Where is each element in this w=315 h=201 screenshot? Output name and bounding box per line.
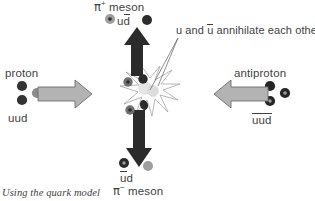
annihilation-annotation-label: u and u annihilate each other xyxy=(176,24,315,37)
annotation-text-before: u and xyxy=(176,24,207,36)
pi-minus-meson-label: π− meson xyxy=(113,186,163,198)
antiproton-direction-arrow xyxy=(214,80,268,108)
antiproton-quark-content-label: uud xyxy=(252,113,272,127)
antiproton-quark-content-text: uud xyxy=(252,113,272,126)
pi-plus-meson-label: π+ meson xyxy=(94,2,144,14)
proton-direction-arrow xyxy=(38,80,92,108)
pi-minus-symbol: π xyxy=(113,184,120,198)
annotation-text-after: annihilate each other xyxy=(213,24,315,36)
pi-plus-symbol: π xyxy=(94,0,101,14)
pi-minus-quark-d: d xyxy=(127,172,134,184)
antiproton-quark-dots xyxy=(265,81,290,106)
pi-plus-direction-arrow xyxy=(124,27,150,76)
annotation-leader-line xyxy=(150,38,178,90)
pi-plus-meson-word: meson xyxy=(106,1,144,13)
antiproton-label: antiproton xyxy=(234,68,286,80)
figure-caption: Using the quark model xyxy=(2,188,100,199)
pi-plus-quark-dbar: d xyxy=(124,14,131,27)
pi-minus-meson-word: meson xyxy=(125,185,163,197)
pi-minus-direction-arrow xyxy=(126,110,152,167)
quark-model-annihilation-diagram: proton uud antiproton uud π+ meson ud ud… xyxy=(0,0,315,201)
proton-quark-content-label: uud xyxy=(8,113,28,125)
proton-label: proton xyxy=(5,68,38,80)
pi-plus-quark-content-label: ud xyxy=(117,14,130,28)
